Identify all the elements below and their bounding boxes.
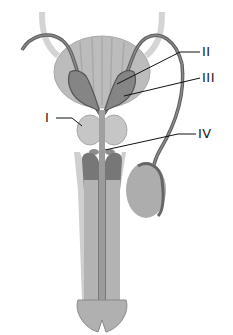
label-IV: IV <box>198 127 212 140</box>
reproductive-system-diagram <box>0 0 233 335</box>
label-II: II <box>202 45 211 58</box>
label-I: I <box>45 111 49 124</box>
label-III: III <box>202 71 215 84</box>
testis <box>126 162 166 218</box>
penis <box>74 150 127 332</box>
prostate <box>77 110 127 150</box>
